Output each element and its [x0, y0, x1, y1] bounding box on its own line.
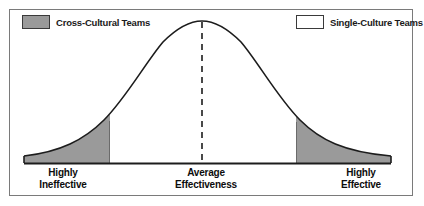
- legend-swatch-filled-icon: [22, 15, 50, 29]
- axis-label-right-line1: Highly: [318, 167, 404, 179]
- legend-item-single-culture[interactable]: Single-Culture Teams: [296, 15, 423, 29]
- legend-swatch-empty-icon: [296, 15, 324, 29]
- axis-label-highly-ineffective: Highly Ineffective: [20, 167, 106, 190]
- axis-label-right-line2: Effective: [318, 179, 404, 191]
- axis-label-left-line1: Highly: [20, 167, 106, 179]
- axis-label-center-line1: Average: [158, 167, 254, 179]
- axis-label-average-effectiveness: Average Effectiveness: [158, 167, 254, 190]
- left-tail-shaded-area: [24, 21, 391, 163]
- legend-item-cross-cultural[interactable]: Cross-Cultural Teams: [22, 15, 150, 29]
- legend-label-cross-cultural: Cross-Cultural Teams: [56, 17, 150, 28]
- axis-label-center-line2: Effectiveness: [158, 179, 254, 191]
- bell-curve-line: [24, 21, 391, 156]
- legend-label-single-culture: Single-Culture Teams: [330, 17, 423, 28]
- axis-label-left-line2: Ineffective: [20, 179, 106, 191]
- bell-curve-figure: Cross-Cultural Teams Single-Culture Team…: [0, 0, 424, 206]
- axis-label-highly-effective: Highly Effective: [318, 167, 404, 190]
